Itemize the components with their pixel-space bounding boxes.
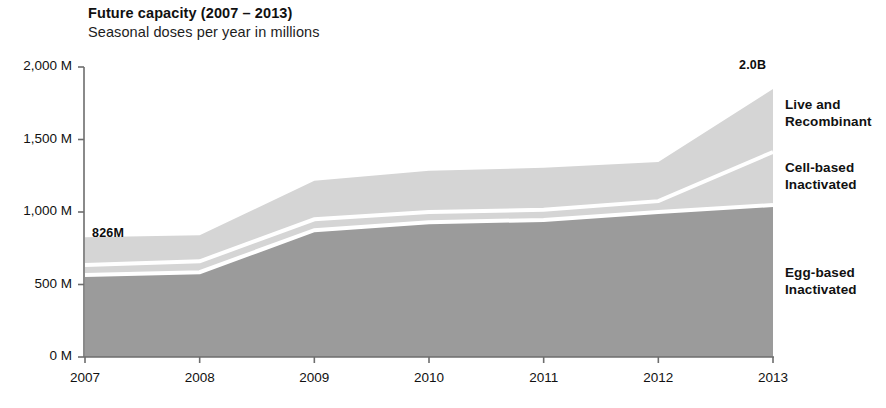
series-label-cell-based-inactivated-line2: Inactivated <box>785 176 857 193</box>
y-axis-tick-label: 1,000 M <box>0 203 72 218</box>
area-egg-based-inactivated <box>85 205 773 357</box>
x-axis-tick-label: 2012 <box>618 370 698 385</box>
series-label-live-and-recombinant: Live and Recombinant <box>785 96 872 130</box>
x-axis-tick-label: 2011 <box>504 370 584 385</box>
x-axis-tick-label: 2010 <box>389 370 469 385</box>
x-axis-tick-label: 2008 <box>160 370 240 385</box>
x-axis-tick-label: 2013 <box>733 370 813 385</box>
y-axis-tick-label: 500 M <box>0 276 72 291</box>
x-axis-tick-label: 2009 <box>274 370 354 385</box>
y-axis-ticks <box>78 67 84 357</box>
y-axis-tick-label: 1,500 M <box>0 131 72 146</box>
x-axis-ticks <box>85 357 773 363</box>
series-label-egg-based-inactivated-line2: Inactivated <box>785 281 857 298</box>
area-chart: Future capacity (2007 – 2013) Seasonal d… <box>0 0 886 408</box>
series-label-egg-based-inactivated: Egg-based Inactivated <box>785 264 857 298</box>
series-label-live-and-recombinant-line1: Live and <box>785 96 872 113</box>
x-axis-tick-label: 2007 <box>45 370 125 385</box>
annotation-start-total: 826M <box>92 226 124 240</box>
series-label-live-and-recombinant-line2: Recombinant <box>785 113 872 130</box>
series-label-cell-based-inactivated-line1: Cell-based <box>785 159 857 176</box>
series-label-cell-based-inactivated: Cell-based Inactivated <box>785 159 857 193</box>
y-axis-tick-label: 0 M <box>0 348 72 363</box>
y-axis-tick-label: 2,000 M <box>0 58 72 73</box>
series-label-egg-based-inactivated-line1: Egg-based <box>785 264 857 281</box>
annotation-end-total: 2.0B <box>739 58 766 72</box>
